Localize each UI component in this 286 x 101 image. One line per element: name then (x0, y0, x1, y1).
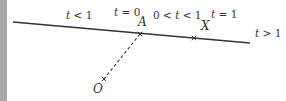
region-label: t = 0 (114, 6, 140, 18)
line-through-a-and-x (13, 22, 250, 43)
point-x: X (192, 19, 210, 40)
region-label: t < 1 (66, 9, 92, 21)
point-label-o: O (93, 82, 103, 96)
diagram-canvas: AXO t < 1t = 00 < t < 1t = 1t > 1 (0, 0, 286, 101)
point-label-x: X (200, 19, 210, 33)
region-label: t > 1 (255, 27, 281, 39)
parameter-region-labels: t < 1t = 00 < t < 1t = 1t > 1 (66, 6, 281, 39)
region-label: 0 < t < 1 (153, 9, 202, 21)
points-group: AXO (93, 15, 210, 96)
dashed-segment-o-to-a (104, 34, 140, 79)
region-label: t = 1 (211, 8, 237, 20)
point-o: O (93, 77, 106, 96)
